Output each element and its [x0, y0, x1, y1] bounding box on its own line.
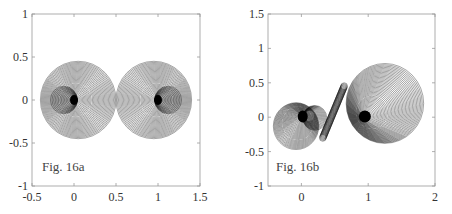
x-tick-label: 2 — [432, 190, 438, 204]
y-tick-label: -0.5 — [9, 136, 28, 150]
figure-label-fig16b: Fig. 16b — [276, 159, 319, 174]
y-tick-label: -1 — [18, 179, 28, 193]
plot-fig16b: 0121.510.50-0.5-1 Fig. 16b — [245, 7, 438, 204]
core-dot — [298, 111, 308, 123]
y-tick-label: -0.5 — [245, 145, 264, 159]
y-tick-label: 0 — [22, 93, 28, 107]
x-tick-label: 1.5 — [193, 190, 208, 204]
x-tick-label: 0 — [71, 190, 77, 204]
x-tick-label: 0 — [298, 190, 304, 204]
y-tick-label: 0.5 — [13, 50, 28, 64]
circle-family-fig16b — [273, 64, 423, 150]
circle-curve — [40, 61, 116, 138]
y-tick-label: 1 — [22, 7, 28, 21]
core-dot — [70, 95, 78, 105]
core-dot — [154, 95, 162, 105]
x-tick-label: 1 — [365, 190, 371, 204]
y-tick-label: 1 — [258, 41, 264, 55]
ticks-fig16b: 0121.510.50-0.5-1 — [245, 7, 438, 204]
y-tick-label: -1 — [254, 179, 264, 193]
circle-curve — [116, 61, 192, 138]
circle-family-fig16a — [40, 61, 191, 138]
y-tick-label: 0.5 — [249, 76, 264, 90]
y-tick-label: 0 — [258, 110, 264, 124]
figure-label-fig16a: Fig. 16a — [42, 159, 85, 174]
x-tick-label: 0.5 — [109, 190, 124, 204]
plot-fig16a: -0.500.511.510.50-0.5-1 Fig. 16a — [9, 7, 208, 204]
figure-canvas: -0.500.511.510.50-0.5-1 Fig. 16a 0121.51… — [0, 0, 452, 214]
x-tick-label: 1 — [155, 190, 161, 204]
y-tick-label: 1.5 — [249, 7, 264, 21]
core-dot — [359, 111, 371, 123]
